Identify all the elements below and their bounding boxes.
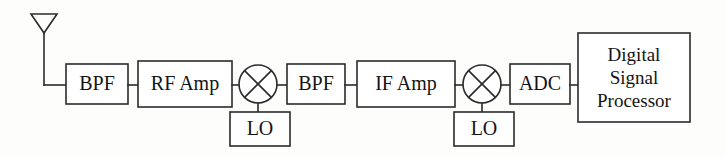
block-rf-amp-label: RF Amp (151, 72, 219, 95)
mixer-icon-2 (463, 65, 501, 103)
antenna-icon (31, 14, 57, 85)
dsp-line-2: Signal (610, 67, 659, 88)
block-lo-1: LO (230, 112, 290, 146)
block-if-amp-label: IF Amp (375, 72, 437, 95)
block-if-amp: IF Amp (357, 61, 455, 107)
block-bpf-1-label: BPF (79, 72, 115, 94)
mixer-icon-1 (239, 65, 277, 103)
block-lo-2-label: LO (471, 117, 498, 139)
dsp-line-3: Processor (597, 90, 672, 111)
dsp-line-1: Digital (608, 44, 661, 65)
rf-receiver-block-diagram: BPF RF Amp LO BPF (0, 0, 725, 157)
block-lo-1-label: LO (247, 117, 274, 139)
block-bpf-2: BPF (287, 64, 345, 104)
block-bpf-2-label: BPF (298, 72, 334, 94)
block-rf-amp: RF Amp (138, 61, 232, 107)
block-adc-label: ADC (519, 72, 561, 94)
block-adc: ADC (510, 64, 570, 104)
block-bpf-1: BPF (66, 64, 128, 104)
block-lo-2: LO (454, 112, 514, 146)
block-diagram-canvas: BPF RF Amp LO BPF (0, 0, 725, 157)
block-digital-signal-processor: Digital Signal Processor (578, 33, 690, 122)
